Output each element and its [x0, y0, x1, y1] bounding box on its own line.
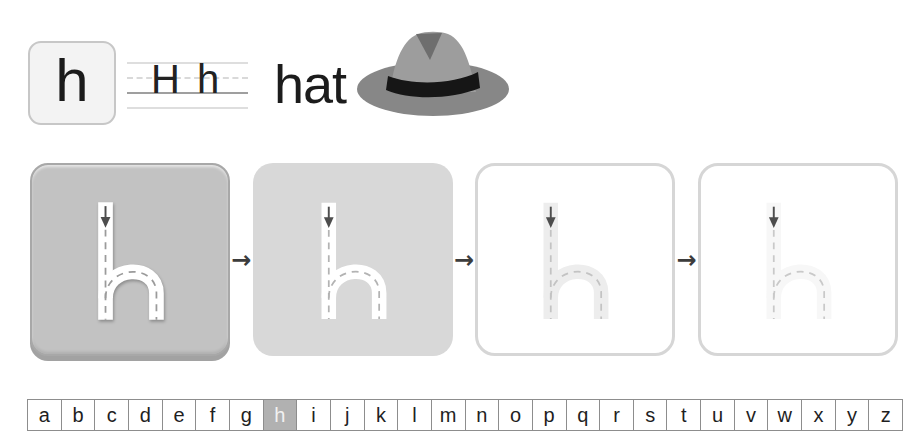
alphabet-cell-h[interactable]: h: [263, 399, 298, 431]
trace-card-stage-4[interactable]: [698, 163, 898, 356]
letter-tile-letter: h: [55, 51, 88, 111]
alphabet-cell-s[interactable]: s: [633, 399, 668, 431]
alphabet-cell-f[interactable]: f: [195, 399, 230, 431]
trace-card-stage-3[interactable]: [475, 163, 675, 356]
alphabet-cell-e[interactable]: e: [162, 399, 197, 431]
alphabet-cell-j[interactable]: j: [330, 399, 365, 431]
guide-line-bottom: [127, 107, 248, 109]
alphabet-cell-c[interactable]: c: [94, 399, 129, 431]
alphabet-cell-y[interactable]: y: [835, 399, 870, 431]
trace-letter: [256, 166, 450, 353]
tracing-row: → → →: [30, 163, 898, 363]
alphabet-cell-n[interactable]: n: [465, 399, 500, 431]
alphabet-cell-z[interactable]: z: [868, 399, 903, 431]
arrow-separator-icon: →: [230, 163, 252, 356]
trace-letter: [478, 166, 672, 353]
alphabet-cell-b[interactable]: b: [61, 399, 96, 431]
word-label: hat: [274, 57, 346, 111]
alphabet-cell-v[interactable]: v: [734, 399, 769, 431]
trace-letter: [32, 165, 228, 354]
alphabet-cell-l[interactable]: l: [397, 399, 432, 431]
guide-sample-text: H h: [151, 59, 222, 99]
arrow-separator-icon: →: [676, 163, 698, 356]
alphabet-cell-x[interactable]: x: [801, 399, 836, 431]
hat-illustration: [352, 20, 512, 122]
letter-tile[interactable]: h: [28, 41, 116, 125]
alphabet-cell-a[interactable]: a: [27, 399, 62, 431]
trace-card-stage-2[interactable]: [253, 163, 453, 356]
trace-letter: [701, 166, 895, 353]
alphabet-cell-i[interactable]: i: [296, 399, 331, 431]
alphabet-cell-o[interactable]: o: [498, 399, 533, 431]
alphabet-cell-w[interactable]: w: [767, 399, 802, 431]
trace-card-stage-1[interactable]: [30, 163, 230, 356]
alphabet-cell-d[interactable]: d: [128, 399, 163, 431]
alphabet-cell-g[interactable]: g: [229, 399, 264, 431]
alphabet-strip: abcdefghijklmnopqrstuvwxyz: [27, 399, 903, 431]
alphabet-cell-q[interactable]: q: [566, 399, 601, 431]
arrow-separator-icon: →: [453, 163, 475, 356]
alphabet-cell-t[interactable]: t: [666, 399, 701, 431]
alphabet-cell-k[interactable]: k: [364, 399, 399, 431]
hat-icon: [352, 20, 512, 122]
alphabet-cell-u[interactable]: u: [700, 399, 735, 431]
alphabet-cell-r[interactable]: r: [599, 399, 634, 431]
alphabet-cell-p[interactable]: p: [532, 399, 567, 431]
handwriting-guide: H h: [127, 55, 248, 115]
alphabet-cell-m[interactable]: m: [431, 399, 466, 431]
